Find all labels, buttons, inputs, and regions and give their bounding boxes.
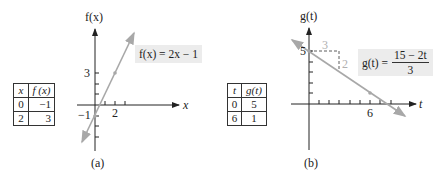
axes-b — [291, 28, 416, 150]
x-ticks — [319, 100, 391, 104]
point-0-5 — [307, 49, 311, 53]
x-axis-label-a: x — [183, 98, 188, 113]
tick-label-3: 3 — [84, 66, 90, 81]
caption-a: (a) — [91, 156, 104, 171]
x-axis-label-b: t — [419, 97, 422, 112]
equation-fraction: 15 − 2t 3 — [392, 48, 429, 77]
equation-label-a: f(x) = 2x − 1 — [135, 45, 202, 63]
equation-lhs: g(t) = — [362, 56, 388, 70]
point-0-neg1 — [93, 114, 97, 118]
figure: x f (x) 0 −1 2 3 t g(t) 0 5 6 1 — [0, 0, 436, 182]
tick-label-6: 6 — [367, 106, 373, 121]
point-2-3 — [113, 71, 117, 75]
point-6-1 — [368, 91, 372, 95]
y-axis-label-b: g(t) — [300, 9, 317, 24]
y-ticks — [309, 51, 313, 93]
caption-b: (b) — [304, 156, 318, 171]
equation-denominator: 3 — [392, 63, 429, 77]
y-axis-label-a: f(x) — [85, 10, 103, 25]
x-ticks — [105, 101, 125, 105]
equation-numerator: 15 − 2t — [392, 48, 429, 63]
rise-label: 2 — [342, 57, 348, 72]
equation-label-b: g(t) = 15 − 2t 3 — [358, 49, 433, 76]
tick-label-2: 2 — [112, 106, 118, 121]
run-label: 3 — [322, 38, 328, 53]
tick-label-neg1: −1 — [78, 108, 91, 123]
function-line-a — [82, 33, 134, 142]
graphs — [0, 0, 436, 182]
tick-label-5: 5 — [300, 44, 306, 59]
